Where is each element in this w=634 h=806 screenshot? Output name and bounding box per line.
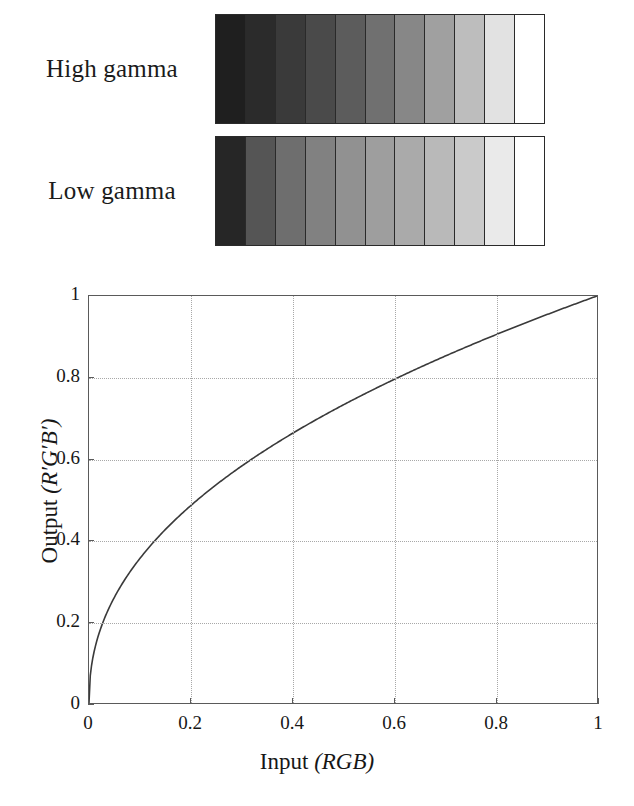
- gray-patch: [246, 15, 276, 123]
- x-axis-tick-label: 0.6: [364, 712, 424, 734]
- gridline-horizontal: [89, 378, 597, 379]
- x-axis-tickmark: [496, 698, 497, 704]
- x-axis-tickmark: [292, 698, 293, 704]
- gridline-vertical: [191, 296, 192, 703]
- x-axis-tick-label: 0.2: [160, 712, 220, 734]
- gray-patch: [395, 15, 425, 123]
- gridline-vertical: [293, 296, 294, 703]
- gray-patch: [246, 137, 276, 245]
- gamma-curve: [89, 296, 597, 703]
- gamma-transfer-chart: 00.20.40.60.81 00.20.40.60.81 Input (RGB…: [0, 262, 634, 806]
- gray-patch: [366, 137, 396, 245]
- gray-step-wedge-high-gamma: [215, 14, 545, 124]
- gray-patch: [515, 137, 544, 245]
- gray-patch: [455, 137, 485, 245]
- x-axis-title-plain: Input: [260, 749, 309, 774]
- y-axis-title-plain: Output: [37, 500, 62, 564]
- ramp-label-low-gamma: Low gamma: [18, 136, 206, 246]
- gridline-horizontal: [89, 541, 597, 542]
- gray-step-wedge-low-gamma: [215, 136, 545, 246]
- y-axis-title-italic: (R′G′B′): [37, 419, 62, 494]
- gray-patch: [276, 15, 306, 123]
- gray-patch: [395, 137, 425, 245]
- ramp-row-low-gamma: Low gamma: [0, 136, 634, 246]
- y-axis-tickmark: [88, 377, 94, 378]
- x-axis-title-italic: (RGB): [314, 749, 374, 774]
- x-axis-tickmark: [190, 698, 191, 704]
- x-axis-tick-label: 1: [568, 712, 628, 734]
- gray-patch: [216, 15, 246, 123]
- x-axis-tickmark: [394, 698, 395, 704]
- gray-patch: [425, 15, 455, 123]
- x-axis-tick-label: 0: [58, 712, 118, 734]
- x-axis-tickmark: [88, 698, 89, 704]
- gray-ramp-section: High gamma Low gamma: [0, 0, 634, 262]
- gray-patch: [306, 137, 336, 245]
- gray-patch: [306, 15, 336, 123]
- gridline-vertical: [395, 296, 396, 703]
- gridline-vertical: [497, 296, 498, 703]
- gray-patch: [276, 137, 306, 245]
- y-axis-tickmark: [88, 295, 94, 296]
- y-axis-tickmark: [88, 540, 94, 541]
- x-axis-title: Input (RGB): [0, 749, 634, 775]
- gray-patch: [515, 15, 544, 123]
- ramp-label-high-gamma: High gamma: [18, 14, 206, 124]
- y-axis-tick-label: 0: [28, 692, 80, 714]
- gray-patch: [485, 15, 515, 123]
- gray-patch: [216, 137, 246, 245]
- plot-area: [88, 295, 598, 704]
- gridline-horizontal: [89, 460, 597, 461]
- gridline-horizontal: [89, 623, 597, 624]
- ramp-row-high-gamma: High gamma: [0, 14, 634, 124]
- y-axis-title: Output (R′G′B′): [37, 291, 63, 691]
- gray-patch: [366, 15, 396, 123]
- gray-patch: [336, 137, 366, 245]
- y-axis-tickmark: [88, 622, 94, 623]
- gray-patch: [336, 15, 366, 123]
- x-axis-tick-label: 0.8: [466, 712, 526, 734]
- y-axis-tickmark: [88, 704, 94, 705]
- gray-patch: [455, 15, 485, 123]
- x-axis-tick-label: 0.4: [262, 712, 322, 734]
- gray-patch: [485, 137, 515, 245]
- gray-patch: [425, 137, 455, 245]
- x-axis-tickmark: [598, 698, 599, 704]
- y-axis-tickmark: [88, 459, 94, 460]
